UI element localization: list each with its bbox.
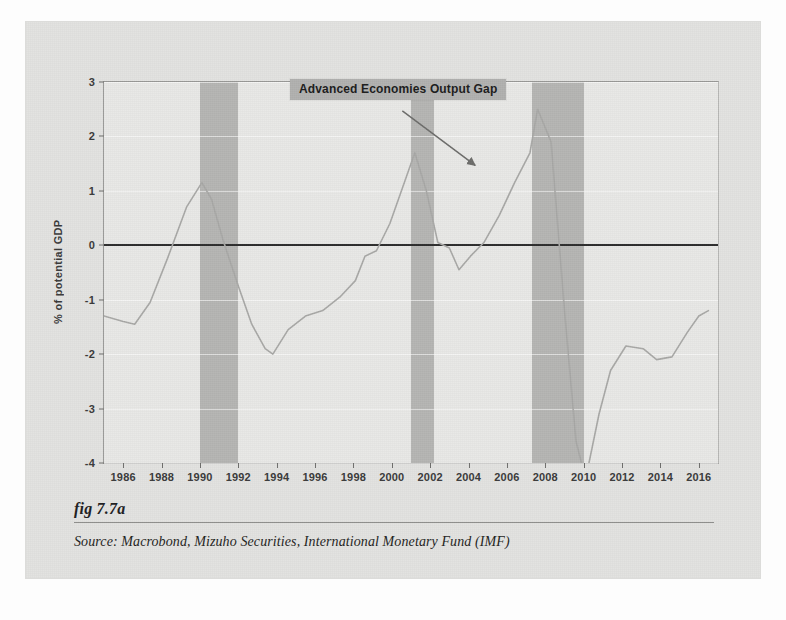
caption-divider (74, 522, 714, 523)
figure-panel: % of potential GDP 3210-1-2-3-4 19861988… (26, 22, 760, 578)
x-tick-mark-1988 (162, 463, 163, 468)
x-tick-mark-2016 (699, 463, 700, 468)
chart-area: % of potential GDP 3210-1-2-3-4 19861988… (26, 22, 760, 492)
source-note: Source: Macrobond, Mizuho Securities, In… (74, 534, 714, 550)
x-tick-label-1998: 1998 (341, 471, 366, 483)
x-tick-label-2012: 2012 (609, 471, 634, 483)
x-tick-mark-1994 (277, 463, 278, 468)
x-tick-mark-2010 (584, 463, 585, 468)
x-tick-mark-2014 (660, 463, 661, 468)
y-tick-label-0: 0 (89, 239, 95, 251)
x-tick-mark-2006 (507, 463, 508, 468)
y-tick-label--4: -4 (85, 457, 95, 469)
x-tick-mark-2000 (392, 463, 393, 468)
x-tick-mark-2002 (430, 463, 431, 468)
y-tick-mark--4 (99, 463, 104, 464)
y-tick-mark-0 (99, 245, 104, 246)
x-tick-label-2008: 2008 (533, 471, 558, 483)
x-tick-mark-1986 (123, 463, 124, 468)
x-tick-label-1994: 1994 (264, 471, 289, 483)
x-tick-label-2000: 2000 (379, 471, 404, 483)
y-tick-mark-2 (99, 136, 104, 137)
figure-caption: fig 7.7a (74, 500, 714, 518)
series-annotation-label: Advanced Economies Output Gap (290, 79, 506, 100)
x-tick-label-1996: 1996 (302, 471, 327, 483)
page-background: % of potential GDP 3210-1-2-3-4 19861988… (0, 0, 786, 620)
x-tick-mark-2008 (545, 463, 546, 468)
x-tick-label-2002: 2002 (418, 471, 443, 483)
y-tick-label--2: -2 (85, 348, 95, 360)
x-tick-label-2014: 2014 (648, 471, 673, 483)
x-tick-label-1992: 1992 (226, 471, 251, 483)
x-tick-mark-1996 (315, 463, 316, 468)
x-tick-label-2004: 2004 (456, 471, 481, 483)
y-tick-mark--3 (99, 408, 104, 409)
x-tick-label-2010: 2010 (571, 471, 596, 483)
plot-area: 3210-1-2-3-4 198619881990199219941996199… (103, 81, 719, 464)
y-tick-label-1: 1 (89, 185, 95, 197)
x-tick-mark-2004 (469, 463, 470, 468)
y-tick-label--3: -3 (85, 403, 95, 415)
caption-block: fig 7.7a Source: Macrobond, Mizuho Secur… (74, 500, 714, 550)
x-tick-label-1986: 1986 (111, 471, 136, 483)
y-tick-label-3: 3 (89, 76, 95, 88)
y-tick-mark-1 (99, 190, 104, 191)
x-tick-label-1990: 1990 (187, 471, 212, 483)
x-tick-mark-1992 (238, 463, 239, 468)
y-tick-mark--1 (99, 299, 104, 300)
x-tick-mark-2012 (622, 463, 623, 468)
x-tick-label-2006: 2006 (494, 471, 519, 483)
y-axis-title: % of potential GDP (50, 81, 66, 462)
y-tick-mark--2 (99, 354, 104, 355)
y-tick-label-2: 2 (89, 130, 95, 142)
y-tick-mark-3 (99, 82, 104, 83)
x-tick-mark-1990 (200, 463, 201, 468)
x-tick-mark-1998 (353, 463, 354, 468)
series-line-advanced-economies-output-gap (104, 82, 718, 463)
y-tick-label--1: -1 (85, 294, 95, 306)
x-tick-label-1988: 1988 (149, 471, 174, 483)
series-path (104, 109, 708, 479)
gridline--4 (104, 463, 718, 464)
x-tick-label-2016: 2016 (686, 471, 711, 483)
